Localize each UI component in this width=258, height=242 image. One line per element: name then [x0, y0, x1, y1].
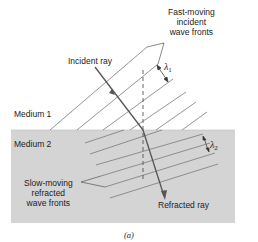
incident-fronts-leader	[147, 43, 164, 64]
incident-ray	[95, 67, 143, 130]
refracted-ray-label: Refracted ray	[158, 200, 209, 210]
medium-2-label: Medium 2	[14, 139, 51, 149]
lambda1-label: λ1	[164, 62, 172, 73]
lambda2-label: λ2	[210, 140, 218, 151]
incident-ray-label: Incident ray	[68, 56, 112, 66]
refracted-fronts-label: Slow-moving refracted wave fronts	[24, 178, 73, 208]
figure-caption: (a)	[124, 230, 134, 240]
incident-fronts-label: Fast-moving incident wave fronts	[168, 7, 215, 37]
medium-1-label: Medium 1	[14, 109, 51, 119]
